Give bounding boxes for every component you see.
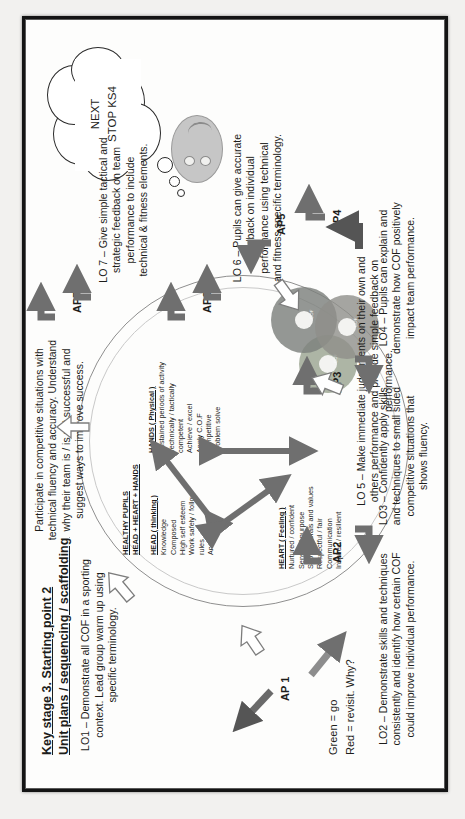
flow-arrows-layer (25, 19, 439, 783)
poster-sheet: Key stage 3. Starting point 2 Unit plans… (22, 16, 448, 792)
poster-canvas: Key stage 3. Starting point 2 Unit plans… (25, 19, 439, 783)
screenshot-root: Key stage 3. Starting point 2 Unit plans… (0, 0, 465, 819)
